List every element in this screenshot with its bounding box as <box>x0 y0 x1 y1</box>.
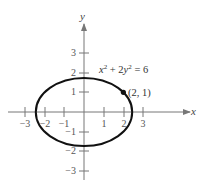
equation-label: x2 + 2y2 = 6 <box>98 63 148 75</box>
x-tick-label: 1 <box>102 118 107 129</box>
marked-point <box>121 90 126 95</box>
ellipse-graph: x y −3 −2 −1 1 2 3 3 2 1 −1 −2 −3 ( <box>0 0 198 189</box>
x-axis-label: x <box>190 105 196 117</box>
y-tick-label: 1 <box>71 86 76 97</box>
marked-point-label: (2, 1) <box>128 87 151 99</box>
x-tick-label: 3 <box>141 118 146 129</box>
y-tick-label: −1 <box>65 126 76 137</box>
eq-rhs: = 6 <box>132 64 148 75</box>
y-tick-label: 2 <box>71 67 76 78</box>
y-tick-label: −3 <box>65 165 76 176</box>
x-tick-label: −3 <box>20 118 31 129</box>
y-axis-label: y <box>79 10 85 22</box>
eq-plus: + 2 <box>107 64 123 75</box>
y-tick-label: −2 <box>65 145 76 156</box>
x-tick-label: 2 <box>122 118 127 129</box>
y-tick-label: 3 <box>71 47 76 58</box>
